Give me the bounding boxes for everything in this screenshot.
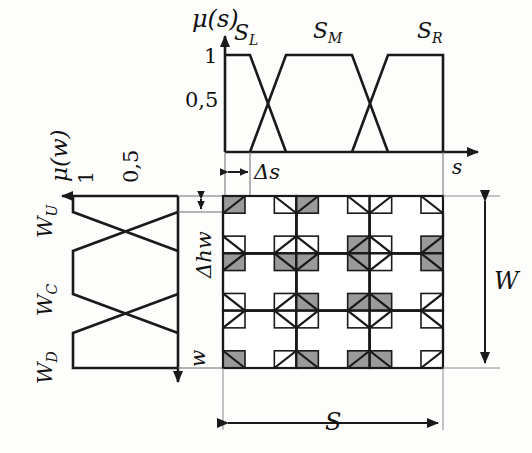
set-label-WC: WC — [33, 284, 60, 316]
top-plot-x-axis-label: s — [452, 155, 462, 179]
membership-curve-SM — [250, 55, 388, 152]
left-plot-tick-1: 1 — [74, 171, 98, 184]
set-label-SL-base: S — [234, 20, 249, 45]
tile-pattern-group — [223, 196, 443, 368]
set-label-SR-base: S — [417, 18, 432, 43]
set-label-WU-base: W — [33, 216, 57, 238]
set-label-SM-sub: M — [328, 30, 342, 46]
set-label-SL-sub: L — [249, 32, 258, 48]
set-label-WC-base: W — [33, 294, 57, 316]
set-label-WD-base: W — [33, 362, 57, 384]
dimension-label-W: W — [494, 267, 519, 295]
left-plot-w-axis-label: w — [186, 350, 210, 367]
set-label-SR-sub: R — [432, 30, 443, 46]
left-plot-mu-axis-label: μ(w) — [46, 129, 72, 182]
set-label-WD: WD — [33, 351, 60, 384]
pattern-frame — [223, 196, 443, 368]
set-label-SM: SM — [313, 18, 342, 46]
set-label-WU: WU — [33, 205, 60, 238]
set-label-WC-sub: C — [44, 284, 60, 295]
dimension-label-S: S — [325, 408, 341, 436]
membership-curve-SR — [352, 55, 443, 152]
membership-curve-WD — [73, 294, 178, 368]
figure-canvas: μ(s) 1 0,5 SL SM SR s Δs μ(w) 1 0,5 WU W… — [0, 0, 532, 453]
left-plot-tick-05: 0,5 — [119, 150, 143, 183]
figure-vector-layer — [0, 0, 532, 453]
set-label-SL: SL — [234, 20, 258, 48]
top-plot-y-axis-label: μ(s) — [192, 5, 239, 33]
set-label-WD-sub: D — [44, 351, 60, 362]
top-plot-tick-1: 1 — [204, 44, 217, 68]
membership-curve-WU — [73, 196, 178, 251]
set-label-WU-sub: U — [44, 205, 60, 217]
top-plot-tick-05: 0,5 — [185, 88, 218, 112]
set-label-SR: SR — [417, 18, 443, 46]
delta-s-label: Δs — [254, 160, 280, 184]
set-label-SM-base: S — [313, 18, 328, 43]
delta-hw-label: Δhw — [192, 231, 216, 278]
